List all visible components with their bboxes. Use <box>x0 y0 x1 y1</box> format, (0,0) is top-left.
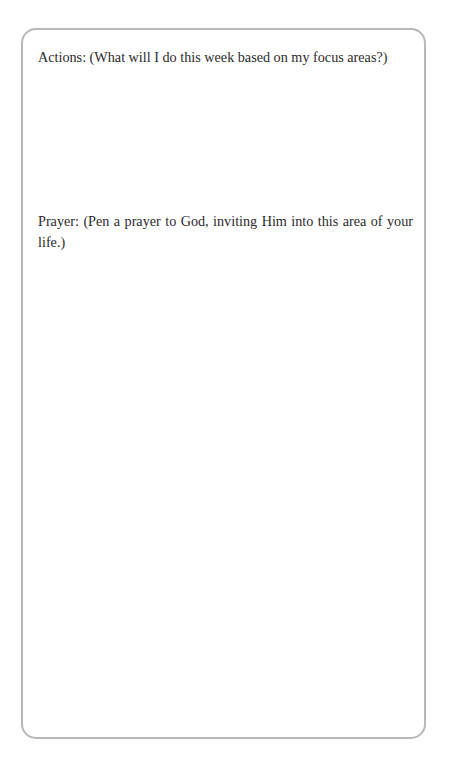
actions-prompt-label: Actions: (What will I do this week based… <box>38 47 413 68</box>
prayer-prompt-label: Prayer: (Pen a prayer to God, inviting H… <box>38 211 413 253</box>
cut-off-header-bleed: · ·· · <box>0 0 450 3</box>
worksheet-box: Actions: (What will I do this week based… <box>21 28 426 739</box>
actions-answer-area[interactable] <box>38 70 413 210</box>
prayer-answer-area[interactable] <box>38 256 413 726</box>
